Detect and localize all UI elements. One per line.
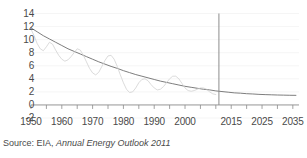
data-series-group: [31, 28, 296, 95]
y-tick-label: 0: [14, 100, 34, 110]
x-tick-label: 2000: [174, 116, 195, 127]
series-line-smooth-trend: [31, 28, 296, 95]
y-tick-label: 8: [14, 48, 34, 58]
x-tick-label: 1980: [113, 116, 134, 127]
x-tick-label: 1970: [82, 116, 103, 127]
chart-figure: 14121086420-2 19501960197019801990200020…: [0, 0, 307, 158]
plot-area: [0, 0, 307, 134]
x-tick-label: 2015: [220, 116, 241, 127]
y-axis-labels: 14121086420-2: [14, 0, 34, 134]
x-tick-label: 1960: [51, 116, 72, 127]
chart-svg: [0, 0, 307, 134]
series-line-volatile-actual: [31, 29, 216, 94]
x-tick-label: 1950: [20, 116, 41, 127]
x-tick-label: 1990: [143, 116, 164, 127]
x-tick-label: 2035: [282, 116, 303, 127]
source-title: Annual Energy Outlook 2011: [56, 138, 170, 148]
x-tick-label: 2025: [251, 116, 272, 127]
y-tick-label: 4: [14, 74, 34, 84]
y-tick-label: 12: [14, 22, 34, 32]
x-axis-ticks: [31, 105, 293, 109]
source-note: Source: EIA, Annual Energy Outlook 2011: [3, 138, 170, 149]
gridlines: [31, 14, 299, 119]
x-axis-labels: 195019601970198019902000201520252035: [0, 116, 307, 130]
y-tick-label: 14: [14, 9, 34, 19]
y-tick-label: 10: [14, 35, 34, 45]
source-prefix: Source: EIA,: [3, 138, 56, 148]
y-tick-label: 2: [14, 87, 34, 97]
y-tick-label: 6: [14, 61, 34, 71]
